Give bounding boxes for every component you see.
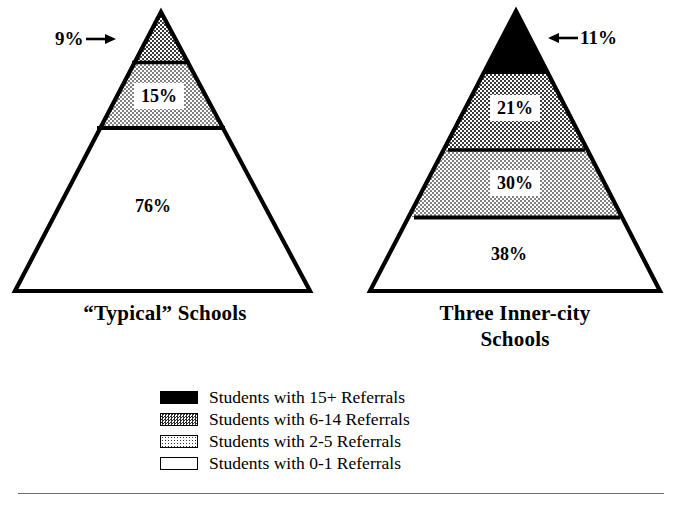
legend-label-2-5: Students with 2-5 Referrals <box>209 431 401 451</box>
legend-label-0-1: Students with 0-1 Referrals <box>209 453 401 473</box>
legend-item-2-5: Students with 2-5 Referrals <box>160 430 410 452</box>
callout-typical-9-percent: 9% <box>55 28 116 50</box>
caption-typical-schools: “Typical” Schools <box>0 300 330 326</box>
label-inner-city-38-percent: 38% <box>491 243 527 265</box>
legend-label-15-plus: Students with 15+ Referrals <box>209 387 405 407</box>
callout-inner-city-11-percent-value: 11% <box>580 27 617 49</box>
legend-item-15-plus: Students with 15+ Referrals <box>160 386 410 408</box>
arrow-left-icon <box>548 31 578 45</box>
label-inner-city-30-percent: 30% <box>490 170 540 196</box>
legend: Students with 15+ Referrals Students wit… <box>160 386 410 474</box>
label-typical-76-percent: 76% <box>135 195 171 217</box>
legend-swatch-white-icon <box>160 457 198 470</box>
bottom-divider-rule <box>18 493 664 494</box>
arrow-right-icon <box>86 32 116 46</box>
legend-item-0-1: Students with 0-1 Referrals <box>160 452 410 474</box>
label-inner-city-21-percent: 21% <box>490 95 540 121</box>
label-typical-15-percent: 15% <box>134 83 184 109</box>
legend-swatch-black-icon <box>160 391 198 404</box>
callout-inner-city-11-percent: 11% <box>548 27 617 49</box>
legend-item-6-14: Students with 6-14 Referrals <box>160 408 410 430</box>
callout-typical-9-percent-value: 9% <box>55 28 84 50</box>
figure-canvas: 9% 15% 76% 11% 21% 30% 38% “Typical” Sch… <box>0 0 680 505</box>
legend-swatch-light-gray-icon <box>160 435 198 448</box>
caption-three-inner-city-schools: Three Inner-city Schools <box>350 300 680 352</box>
legend-label-6-14: Students with 6-14 Referrals <box>209 409 410 429</box>
legend-swatch-dark-gray-icon <box>160 413 198 426</box>
